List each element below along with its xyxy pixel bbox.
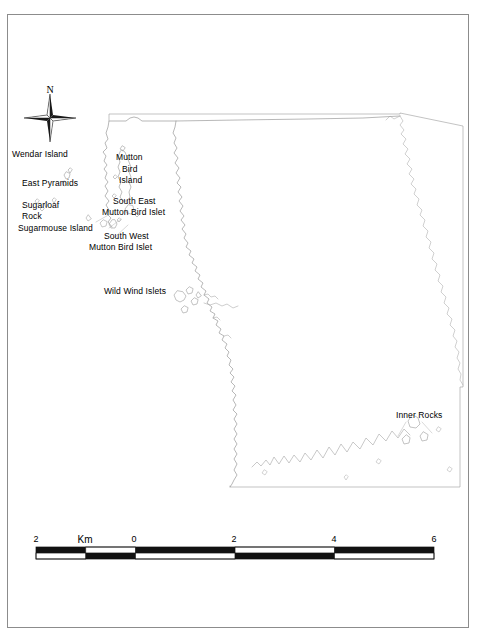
label-inner-rocks: Inner Rocks bbox=[396, 410, 442, 420]
offshore-rocks bbox=[262, 427, 452, 480]
label-wild-wind-islets: Wild Wind Islets bbox=[104, 286, 166, 296]
scale-tick-label-4: 6 bbox=[431, 534, 436, 544]
scale-bar: 2 Km 0 2 4 6 bbox=[18, 534, 438, 568]
label-sugarloaf-rock-line2: Rock bbox=[22, 211, 42, 221]
north-arrow: N bbox=[22, 84, 78, 142]
label-south-west-mutton-bird-islet-line2: Mutton Bird Islet bbox=[89, 242, 152, 252]
scale-unit-label: Km bbox=[78, 534, 93, 545]
label-sugarmouse-island: Sugarmouse Island bbox=[18, 223, 93, 233]
study-area-boundary bbox=[109, 113, 463, 487]
label-south-east-mutton-bird-islet-line1: South East bbox=[113, 196, 156, 206]
sugarloaf-rock bbox=[86, 215, 91, 221]
map-figure-page: N Wendar Island East bbox=[0, 0, 477, 642]
north-arrow-label: N bbox=[22, 84, 78, 95]
label-mutton-bird-island-line2: Bird bbox=[122, 164, 138, 174]
scale-tick-label-0: 2 bbox=[33, 534, 38, 544]
scale-tick-label-3: 4 bbox=[331, 534, 336, 544]
wild-wind-islets bbox=[174, 287, 201, 313]
label-south-east-mutton-bird-islet-line2: Mutton Bird Islet bbox=[102, 207, 165, 217]
label-mutton-bird-island-line1: Mutton bbox=[116, 152, 143, 162]
scale-bar-bottom-row bbox=[36, 553, 434, 559]
southern-reef-chain bbox=[204, 303, 238, 308]
north-coastline bbox=[109, 116, 400, 121]
label-sugarloaf-rock-line1: Sugarloaf bbox=[22, 200, 59, 210]
inner-rocks-leader-line bbox=[398, 422, 432, 436]
label-east-pyramids: East Pyramids bbox=[22, 178, 78, 188]
scale-tick-label-2: 2 bbox=[231, 534, 236, 544]
scale-tick-label-1: 0 bbox=[131, 534, 136, 544]
southeast-archipelago bbox=[252, 429, 410, 467]
label-mutton-bird-island-line3: Island bbox=[119, 175, 142, 185]
label-wendar-island: Wendar Island bbox=[12, 149, 68, 159]
sugarmouse-island bbox=[100, 220, 107, 227]
scale-bar-top-row bbox=[36, 547, 434, 553]
east-coastline bbox=[400, 116, 463, 385]
label-south-west-mutton-bird-islet-line1: South West bbox=[104, 231, 149, 241]
